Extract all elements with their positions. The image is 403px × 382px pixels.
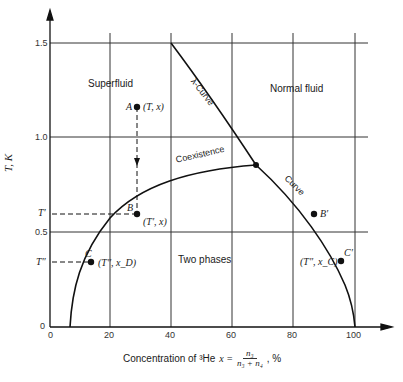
point-c-prime	[338, 258, 344, 264]
t-prime-label: T′	[38, 208, 46, 218]
y-axis-label: T, K	[2, 154, 14, 172]
point-b-prime-label: B′	[320, 209, 328, 219]
normal-fluid-label: Normal fluid	[270, 84, 323, 94]
y-tick-1-5: 1.5	[35, 39, 48, 48]
point-b-coords: (T′, x)	[143, 217, 167, 227]
data-points	[88, 104, 344, 265]
point-b	[134, 211, 140, 217]
x-tick-60: 60	[226, 331, 236, 340]
x-tick-0: 0	[48, 331, 53, 340]
fraction-denominator: n₃ + n₄	[237, 359, 263, 368]
point-b-prime	[311, 211, 317, 217]
concentration-fraction: n₃ n₃ + n₄	[237, 349, 263, 368]
tricritical-point	[253, 162, 259, 168]
point-c-prime-label: C′	[344, 248, 353, 258]
x-axis-label: Concentration of ³He x = n₃ n₃ + n₄ , %	[123, 349, 281, 368]
down-arrow-icon	[134, 158, 140, 166]
y-tick-0: 0	[40, 322, 45, 331]
y-tick-0-5: 0.5	[35, 228, 48, 237]
x-axis-label-suffix: , %	[267, 354, 281, 364]
axes	[47, 10, 392, 330]
x-axis-arrow-icon	[381, 324, 392, 330]
point-a-label: A	[126, 102, 132, 112]
coexistence-curve-left	[70, 165, 256, 327]
x-tick-80: 80	[287, 331, 297, 340]
point-c-label: C	[85, 249, 92, 259]
point-c	[88, 259, 94, 265]
x-axis-label-prefix: Concentration of ³He	[123, 354, 215, 364]
x-tick-20: 20	[104, 331, 114, 340]
two-phases-label: Two phases	[178, 255, 231, 265]
y-tick-1-0: 1.0	[35, 133, 48, 142]
x-tick-40: 40	[165, 331, 175, 340]
x-axis-label-var: x =	[219, 354, 233, 364]
point-a	[134, 104, 140, 110]
point-c-coords: (T″, x_D)	[98, 258, 136, 268]
superfluid-label: Superfluid	[88, 79, 133, 89]
y-axis-arrow-icon	[47, 10, 53, 20]
point-c-prime-coords: (T″, x_C)	[300, 257, 338, 267]
point-a-coords: (T, x)	[143, 102, 164, 112]
t-double-prime-label: T″	[36, 257, 46, 267]
phase-diagram	[0, 0, 403, 382]
point-b-label: B	[127, 203, 133, 213]
x-tick-100: 100	[346, 331, 361, 340]
